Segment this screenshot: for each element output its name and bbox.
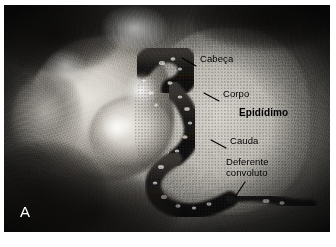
label-cauda: Cauda <box>230 135 259 146</box>
anatomical-photograph: A <box>4 5 330 232</box>
label-cabeca: Cabeça <box>200 53 233 64</box>
label-deferente-convoluto: Deferente convoluto <box>226 156 269 178</box>
label-corpo: Corpo <box>223 88 249 99</box>
label-epididimo: Epidídimo <box>239 107 288 118</box>
panel-letter: A <box>20 203 31 220</box>
figure-root: A CabeçaCorpoEpidídimoCaudaDeferente con… <box>0 0 336 247</box>
vignette <box>4 5 330 232</box>
